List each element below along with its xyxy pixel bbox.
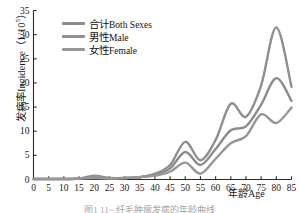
figure-caption: 图1 11~ 纤毛肿瘤发病的年龄曲线: [0, 203, 299, 213]
legend-swatch-male: [62, 35, 85, 38]
y-tick-label: 20: [10, 78, 30, 88]
series-line-both-sexes: [34, 78, 292, 179]
y-tick-label: 15: [10, 102, 30, 112]
y-tick-label: 5: [10, 150, 30, 160]
x-tick-label: 85: [283, 183, 300, 193]
legend-swatch-both-sexes: [62, 22, 85, 25]
y-tick-label: 25: [10, 54, 30, 64]
y-tick-label: 10: [10, 126, 30, 136]
y-tick-label: 30: [10, 30, 30, 40]
legend-item-female: 女性Female: [62, 43, 152, 56]
y-tick-label: 35: [10, 6, 30, 16]
legend-label-female: 女性Female: [89, 42, 137, 57]
legend-swatch-female: [62, 48, 85, 51]
legend: 合计Both Sexes 男性Male 女性Female: [62, 17, 152, 56]
figure-root: 发病率Incidence（1/105） 年龄Age 05101520253035…: [0, 0, 299, 213]
